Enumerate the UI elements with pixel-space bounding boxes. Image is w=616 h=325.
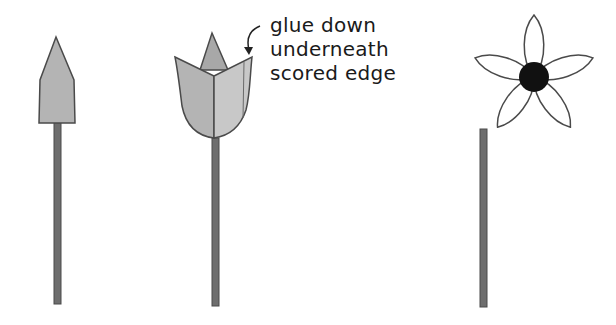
glue-annotation: glue down underneath scored edge: [270, 13, 396, 85]
annotation-line: underneath: [270, 37, 396, 61]
glue-arrow-head: [244, 47, 253, 55]
stem-2: [212, 138, 219, 306]
diagram-canvas: glue down underneath scored edge: [0, 0, 616, 325]
stem-3: [480, 129, 487, 307]
step-3-flower: [472, 15, 596, 307]
annotation-line: glue down: [270, 13, 396, 37]
stem-1: [54, 122, 61, 304]
glue-arrow-icon: [248, 26, 260, 50]
step-2-folded-tulip: [175, 26, 260, 306]
pointed-petal: [39, 37, 75, 123]
flower-center: [519, 62, 549, 92]
five-petal-flower: [472, 15, 596, 133]
step-1-pointed-petal: [39, 37, 75, 304]
annotation-line: scored edge: [270, 61, 396, 85]
tulip-back-point: [200, 33, 228, 70]
